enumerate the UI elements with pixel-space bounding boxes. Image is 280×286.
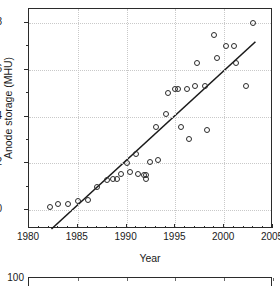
data-point (186, 136, 192, 142)
secondary-tick-mark (175, 278, 176, 281)
y-tick-label: 0 (0, 204, 2, 214)
y-tick-mark (24, 69, 28, 70)
data-point (202, 83, 208, 89)
gridline-vertical (224, 9, 225, 227)
gridline-vertical (127, 9, 128, 227)
secondary-tick-mark (273, 278, 274, 281)
secondary-tick-mark (224, 278, 225, 281)
y-tick-label: 6 (0, 64, 2, 74)
x-tick-mark-minor (38, 226, 39, 228)
scatter-plot-area (28, 8, 272, 228)
x-tick-mark (77, 224, 78, 228)
y-axis-title: Anode storage (MHU) (2, 8, 14, 208)
x-tick-mark-minor (67, 226, 68, 228)
secondary-tick-mark (78, 278, 79, 281)
figure: Anode storage (MHU) Year 100 02468198019… (0, 0, 280, 286)
regression-line (29, 9, 273, 229)
x-tick-mark-minor (233, 226, 234, 228)
data-point (163, 111, 169, 117)
x-tick-mark-minor (96, 226, 97, 228)
data-point (85, 197, 91, 203)
x-tick-label: 1990 (106, 232, 146, 242)
x-tick-mark-minor (184, 226, 185, 228)
y-tick-mark (24, 209, 28, 210)
gridline-vertical (78, 9, 79, 227)
x-tick-mark (174, 224, 175, 228)
gridline-vertical (175, 9, 176, 227)
x-tick-mark-minor (145, 226, 146, 228)
x-tick-mark (28, 224, 29, 228)
x-tick-mark-minor (116, 226, 117, 228)
y-tick-mark (24, 162, 28, 163)
x-tick-mark-minor (262, 226, 263, 228)
data-point (194, 60, 200, 66)
x-tick-mark-minor (155, 226, 156, 228)
x-tick-mark-minor (165, 226, 166, 228)
x-tick-mark-minor (48, 226, 49, 228)
data-point (65, 201, 71, 207)
data-point (118, 171, 124, 177)
x-tick-mark (272, 224, 273, 228)
data-point (127, 169, 133, 175)
data-point (204, 127, 210, 133)
data-point (155, 157, 161, 163)
gridline-horizontal (29, 23, 271, 24)
gridline-horizontal (29, 117, 271, 118)
x-tick-mark-minor (135, 226, 136, 228)
x-tick-label: 1995 (154, 232, 194, 242)
x-tick-mark-minor (243, 226, 244, 228)
x-tick-label: 1980 (8, 232, 48, 242)
x-tick-mark-minor (106, 226, 107, 228)
x-tick-mark-minor (57, 226, 58, 228)
x-tick-mark-minor (252, 226, 253, 228)
y-tick-mark-minor (26, 92, 28, 93)
x-tick-mark-minor (194, 226, 195, 228)
data-point (165, 90, 171, 96)
y-tick-label: 8 (0, 17, 2, 27)
data-point (184, 86, 190, 92)
x-tick-label: 1985 (57, 232, 97, 242)
x-tick-label: 2005 (252, 232, 280, 242)
x-tick-mark-minor (213, 226, 214, 228)
y-tick-mark (24, 22, 28, 23)
data-point (233, 60, 239, 66)
y-tick-mark-minor (26, 186, 28, 187)
y-tick-label: 2 (0, 157, 2, 167)
data-point (75, 198, 81, 204)
x-tick-mark (223, 224, 224, 228)
secondary-tick-mark (127, 278, 128, 281)
y-tick-mark-minor (26, 45, 28, 46)
secondary-plot-area (28, 277, 272, 286)
y-tick-mark (24, 116, 28, 117)
secondary-chart-ytick-label: 100 (0, 272, 24, 283)
data-point (175, 86, 181, 92)
gridline-horizontal (29, 70, 271, 71)
y-tick-mark-minor (26, 139, 28, 140)
y-tick-label: 4 (0, 111, 2, 121)
gridline-horizontal (29, 210, 271, 211)
x-tick-mark (126, 224, 127, 228)
x-axis-title: Year (28, 252, 272, 264)
x-tick-mark-minor (87, 226, 88, 228)
x-tick-mark-minor (204, 226, 205, 228)
x-tick-label: 2000 (203, 232, 243, 242)
data-point (243, 83, 249, 89)
